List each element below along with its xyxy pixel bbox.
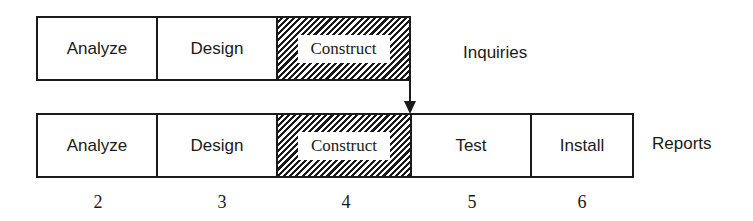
phase-design: Design: [156, 16, 276, 81]
phase-label: Analyze: [67, 39, 127, 59]
row-reports: Analyze Design Construct Test Install: [36, 113, 634, 178]
phase-label: Design: [191, 136, 244, 156]
phase-diagram: Analyze Design Construct Inquiries Analy…: [0, 0, 753, 221]
period-number: 2: [94, 192, 103, 213]
phase-label: Design: [191, 39, 244, 59]
period-number: 3: [218, 192, 227, 213]
phase-label: Test: [455, 136, 486, 156]
period-number: 4: [342, 192, 351, 213]
period-number: 6: [578, 192, 587, 213]
row-label-inquiries: Inquiries: [463, 43, 527, 63]
period-number: 5: [468, 192, 477, 213]
row-label-reports: Reports: [652, 134, 712, 154]
phase-label: Analyze: [67, 136, 127, 156]
phase-construct: Construct: [276, 16, 411, 81]
phase-test: Test: [410, 113, 530, 178]
phase-construct: Construct: [276, 113, 410, 178]
phase-label: Construct: [298, 132, 390, 160]
phase-design: Design: [156, 113, 276, 178]
phase-analyze: Analyze: [36, 16, 156, 81]
row-inquiries: Analyze Design Construct: [36, 16, 411, 81]
phase-label: Install: [560, 136, 604, 156]
phase-analyze: Analyze: [36, 113, 156, 178]
dependency-arrow-line: [409, 81, 411, 103]
phase-label: Construct: [298, 35, 390, 63]
phase-install: Install: [530, 113, 634, 178]
